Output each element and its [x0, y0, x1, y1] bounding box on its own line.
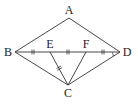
segment-DC — [68, 52, 120, 85]
label-F: F — [83, 37, 90, 51]
label-D: D — [123, 45, 132, 59]
label-C: C — [64, 86, 72, 100]
segment-EC — [50, 52, 68, 85]
segment-AB — [15, 18, 69, 52]
label-B: B — [4, 45, 12, 59]
angle-mark-D — [112, 52, 113, 56]
segment-FC — [68, 52, 86, 85]
label-A: A — [65, 3, 74, 17]
equal-tick-marks — [32, 50, 104, 71]
geometry-figure: A B C D E F — [0, 0, 138, 105]
point-labels: A B C D E F — [4, 3, 132, 100]
segment-AD — [69, 18, 120, 52]
label-E: E — [46, 37, 53, 51]
